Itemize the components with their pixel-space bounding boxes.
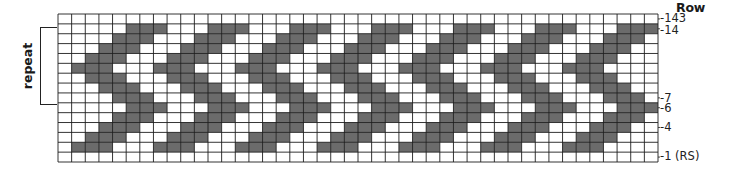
chart-cell bbox=[644, 93, 658, 103]
chart-cell bbox=[140, 132, 154, 142]
chart-cell bbox=[99, 34, 113, 44]
chart-cell bbox=[494, 93, 508, 103]
chart-cell bbox=[126, 53, 140, 63]
chart-cell bbox=[331, 73, 345, 83]
chart-cell bbox=[181, 63, 195, 73]
chart-cell bbox=[631, 152, 645, 162]
chart-cell bbox=[508, 14, 522, 24]
chart-cell bbox=[426, 142, 440, 152]
chart-cell bbox=[181, 44, 195, 54]
chart-cell bbox=[140, 63, 154, 73]
chart-cell bbox=[303, 142, 317, 152]
chart-cell bbox=[194, 83, 208, 93]
chart-cell bbox=[563, 73, 577, 83]
chart-cell bbox=[522, 152, 536, 162]
chart-cell bbox=[440, 14, 454, 24]
chart-cell bbox=[140, 83, 154, 93]
chart-cell bbox=[167, 113, 181, 123]
chart-cell bbox=[58, 152, 72, 162]
chart-cell bbox=[522, 93, 536, 103]
chart-cell bbox=[290, 34, 304, 44]
chart-cell bbox=[222, 113, 236, 123]
chart-cell bbox=[140, 123, 154, 133]
chart-cell bbox=[235, 123, 249, 133]
chart-cell bbox=[113, 73, 127, 83]
chart-cell bbox=[85, 132, 99, 142]
chart-cell bbox=[426, 63, 440, 73]
chart-cell bbox=[303, 123, 317, 133]
chart-cell bbox=[481, 93, 495, 103]
chart-cell bbox=[249, 44, 263, 54]
chart-cell bbox=[317, 44, 331, 54]
chart-cell bbox=[276, 24, 290, 34]
chart-cell bbox=[140, 113, 154, 123]
chart-cell bbox=[72, 44, 86, 54]
chart-cell bbox=[617, 132, 631, 142]
chart-cell bbox=[413, 34, 427, 44]
chart-cell bbox=[426, 24, 440, 34]
chart-cell bbox=[235, 83, 249, 93]
chart-cell bbox=[249, 103, 263, 113]
chart-cell bbox=[167, 63, 181, 73]
chart-cell bbox=[372, 53, 386, 63]
chart-cell bbox=[481, 132, 495, 142]
chart-cell bbox=[58, 132, 72, 142]
chart-cell bbox=[222, 93, 236, 103]
chart-cell bbox=[549, 142, 563, 152]
chart-cell bbox=[440, 123, 454, 133]
chart-cell bbox=[426, 73, 440, 83]
chart-grid bbox=[0, 0, 735, 172]
chart-cell bbox=[590, 24, 604, 34]
chart-cell bbox=[344, 113, 358, 123]
chart-cell bbox=[85, 152, 99, 162]
chart-cell bbox=[222, 24, 236, 34]
chart-cell bbox=[590, 93, 604, 103]
chart-cell bbox=[276, 63, 290, 73]
chart-cell bbox=[576, 152, 590, 162]
chart-cell bbox=[413, 24, 427, 34]
chart-cell bbox=[549, 93, 563, 103]
chart-cell bbox=[263, 44, 277, 54]
chart-cell bbox=[140, 14, 154, 24]
chart-cell bbox=[631, 24, 645, 34]
chart-cell bbox=[413, 93, 427, 103]
chart-cell bbox=[194, 73, 208, 83]
chart-cell bbox=[344, 44, 358, 54]
chart-cell bbox=[372, 142, 386, 152]
chart-cell bbox=[99, 123, 113, 133]
chart-cell bbox=[181, 14, 195, 24]
chart-cell bbox=[113, 103, 127, 113]
chart-cell bbox=[440, 73, 454, 83]
chart-cell bbox=[331, 152, 345, 162]
chart-cell bbox=[617, 123, 631, 133]
chart-cell bbox=[58, 93, 72, 103]
chart-cell bbox=[617, 142, 631, 152]
chart-cell bbox=[113, 34, 127, 44]
chart-cell bbox=[426, 93, 440, 103]
chart-cell bbox=[617, 103, 631, 113]
chart-cell bbox=[290, 24, 304, 34]
chart-cell bbox=[85, 103, 99, 113]
chart-cell bbox=[331, 34, 345, 44]
chart-cell bbox=[385, 24, 399, 34]
chart-cell bbox=[549, 63, 563, 73]
chart-cell bbox=[208, 14, 222, 24]
chart-cell bbox=[440, 132, 454, 142]
chart-cell bbox=[140, 152, 154, 162]
chart-cell bbox=[508, 93, 522, 103]
chart-cell bbox=[535, 63, 549, 73]
chart-cell bbox=[603, 132, 617, 142]
chart-cell bbox=[140, 73, 154, 83]
chart-cell bbox=[590, 34, 604, 44]
chart-cell bbox=[481, 34, 495, 44]
chart-cell bbox=[508, 63, 522, 73]
chart-cell bbox=[576, 93, 590, 103]
chart-cell bbox=[194, 93, 208, 103]
chart-cell bbox=[535, 142, 549, 152]
chart-cell bbox=[372, 123, 386, 133]
chart-cell bbox=[576, 132, 590, 142]
chart-cell bbox=[590, 63, 604, 73]
chart-cell bbox=[399, 24, 413, 34]
chart-cell bbox=[194, 123, 208, 133]
chart-cell bbox=[276, 44, 290, 54]
